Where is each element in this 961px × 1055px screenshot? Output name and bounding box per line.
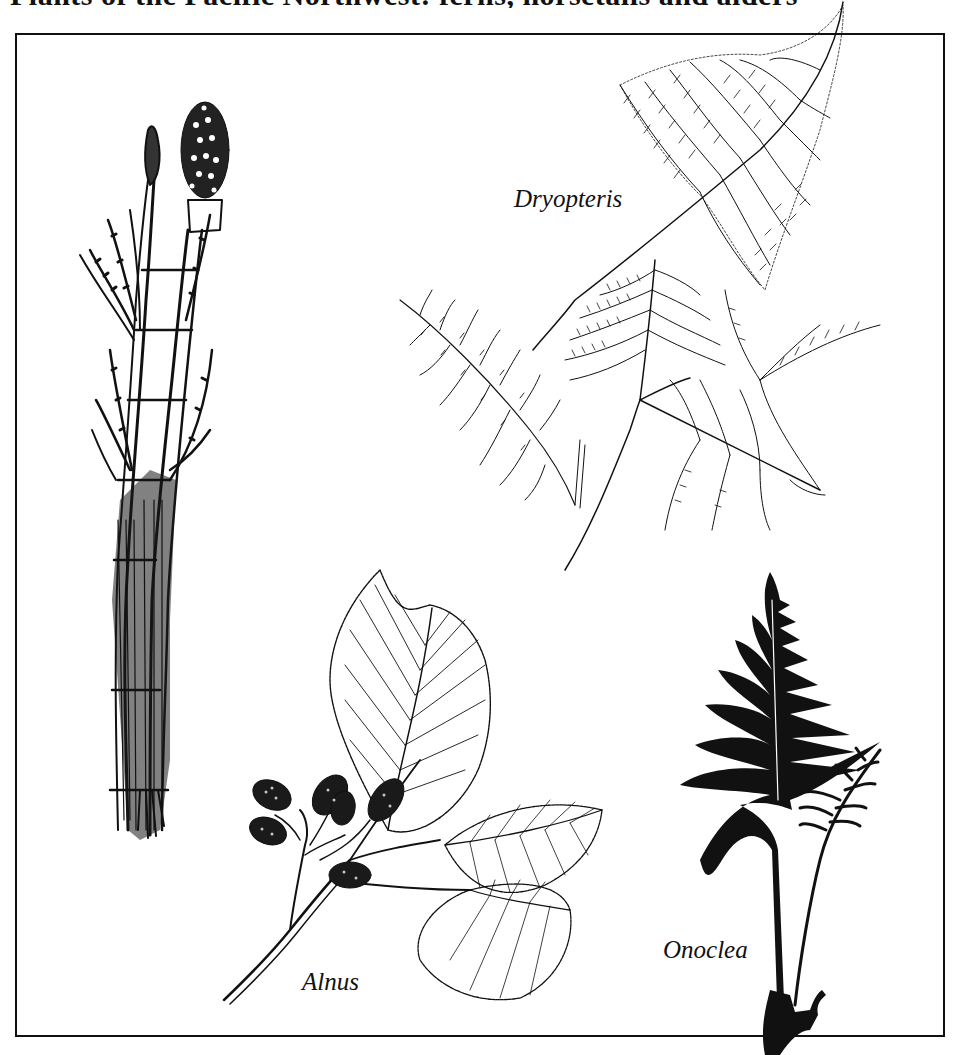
horsetail-drawing bbox=[80, 102, 229, 840]
label-dryopteris: Dryopteris bbox=[514, 185, 622, 213]
label-onoclea: Onoclea bbox=[663, 936, 748, 964]
botanical-illustration bbox=[0, 0, 961, 1055]
alnus-drawing bbox=[224, 540, 602, 1004]
onoclea-drawing bbox=[680, 572, 880, 1055]
label-alnus: Alnus bbox=[302, 968, 359, 996]
dryopteris-drawing bbox=[400, 2, 880, 570]
